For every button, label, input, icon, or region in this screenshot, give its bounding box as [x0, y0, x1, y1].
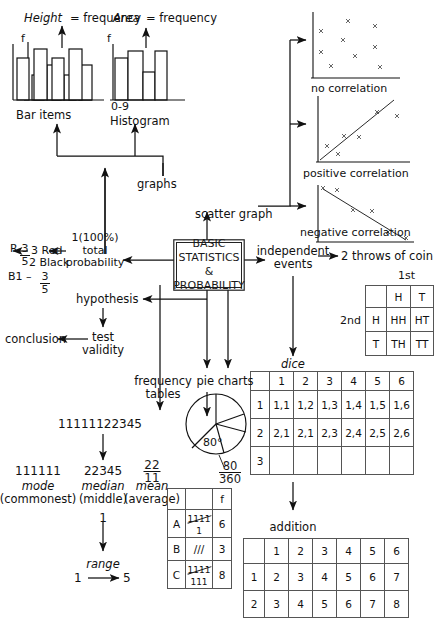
black-prob-denominator: 5 [40, 284, 50, 296]
pie-charts-label: pie charts [196, 375, 253, 388]
tally-remainder: 1 [196, 526, 202, 536]
scatter-caption-positive-correlation: positive correlation [303, 168, 409, 181]
addition-cell: 2 [289, 539, 313, 564]
hist-caption-equals-frequency: = frequency [146, 12, 217, 25]
dice-cell [366, 447, 390, 475]
mode-value: 111111 [15, 465, 61, 478]
conclusion-label: conclusion [5, 333, 66, 346]
tally-marks-cell: 1111 1 [186, 510, 213, 538]
coin-second-label: 2nd [340, 315, 361, 328]
dice-cell: 4 [342, 372, 366, 391]
mean-numerator: 22 [144, 459, 161, 471]
dice-cell [318, 447, 342, 475]
range-label: range [86, 558, 119, 571]
frequency-tables-line1: frequency [134, 375, 192, 388]
coin-throws-text: 2 throws of [341, 249, 409, 263]
addition-cell: 3 [289, 564, 313, 591]
black-prob-numerator: 3 [40, 271, 50, 283]
coin-cell: TT [411, 332, 434, 356]
dice-cell: 2 [294, 372, 318, 391]
addition-cell: 8 [385, 591, 409, 618]
dice-cell: 2,5 [366, 419, 390, 447]
addition-cell: 5 [361, 539, 385, 564]
range-to-value: 5 [123, 572, 131, 585]
table-row: 1 2 3 4 5 6 [251, 372, 414, 391]
tally-frequency-table: f A 1111 1 6 B /// 3 C 1111 111 [167, 488, 232, 589]
bar-chart-title: Bar items [16, 109, 71, 122]
coin-cell: T [411, 286, 434, 308]
red-prob-numerator: 3 [20, 243, 30, 255]
coin-cell: T [366, 332, 387, 356]
addition-cell: 3 [265, 591, 289, 618]
addition-cell: 6 [385, 539, 409, 564]
addition-label: addition [270, 521, 317, 534]
coin-cell [366, 286, 387, 308]
bar-caption-height: Height [24, 12, 62, 25]
tally-header-cell [168, 489, 186, 510]
dice-cell: 1,2 [294, 391, 318, 419]
test-validity-line1: test [92, 331, 114, 344]
center-line-1: BASIC [173, 237, 245, 251]
table-row: 1 2 3 4 5 6 7 [244, 564, 409, 591]
tally-category-cell: C [168, 561, 186, 589]
tally-category-cell: B [168, 538, 186, 561]
dice-cell: 2,3 [318, 419, 342, 447]
tally-header-f: f [213, 489, 232, 510]
hist-axis-f-label: f [107, 33, 111, 46]
scatter-graph-label: scatter graph [195, 208, 273, 221]
tally-marks-cell: /// [186, 538, 213, 561]
tally-header-cell [186, 489, 213, 510]
addition-cell: 7 [385, 564, 409, 591]
red-probability-fraction: 3 5 [20, 243, 30, 268]
hist-range-label: 0-9 [111, 101, 129, 114]
table-row: 3 [251, 447, 414, 475]
dice-label: dice [281, 358, 305, 371]
table-row: T TH TT [366, 332, 434, 356]
dice-cell: 1 [270, 372, 294, 391]
addition-cell: 1 [265, 539, 289, 564]
mode-subtitle: (commonest) [0, 493, 76, 506]
dice-cell [342, 447, 366, 475]
dice-cell: 2,4 [342, 419, 366, 447]
tally-frequency-cell: 8 [213, 561, 232, 589]
center-topic-box[interactable]: BASIC STATISTICS & PROBABILITY [176, 242, 242, 288]
tally-remainder: 111 [190, 577, 207, 587]
addition-cell: 2 [265, 564, 289, 591]
dice-cell: 2,1 [294, 419, 318, 447]
addition-cell: 5 [313, 591, 337, 618]
data-string-value: 11111122345 [58, 418, 142, 431]
graphs-label: graphs [137, 178, 177, 191]
tally-strike-group: 1111 [188, 566, 211, 575]
dice-cell: 2,1 [270, 419, 294, 447]
dice-cell: 2 [251, 419, 270, 447]
hypothesis-label: hypothesis [76, 293, 138, 306]
red-probability-label: R [10, 243, 18, 256]
addition-cell: 4 [289, 591, 313, 618]
balls-black-count: 2 Black [29, 257, 69, 270]
pie-angle-label: 80° [203, 437, 223, 450]
addition-cell: 3 [313, 539, 337, 564]
dice-cell: 5 [366, 372, 390, 391]
addition-cell: 6 [361, 564, 385, 591]
addition-cell: 2 [244, 591, 265, 618]
addition-cell [244, 539, 265, 564]
mean-result: 1 [99, 512, 107, 525]
independent-events-line1: independent [257, 245, 330, 258]
table-row: 1 2 3 4 5 6 [244, 539, 409, 564]
coin-first-label: 1st [398, 270, 415, 283]
dice-cell [390, 447, 414, 475]
black-probability-fraction: 3 5 [40, 271, 50, 296]
total-probability-line1: 1(100%) [71, 232, 118, 245]
dice-cell: 3 [318, 372, 342, 391]
dice-cell: 1,6 [390, 391, 414, 419]
coin-cell: H [387, 286, 411, 308]
median-name: median [81, 480, 124, 493]
table-row: B /// 3 [168, 538, 232, 561]
addition-cell: 5 [337, 564, 361, 591]
tally-strike-group: 1111 [188, 515, 211, 524]
addition-cell: 4 [313, 564, 337, 591]
center-line-2: STATISTICS & [173, 251, 245, 279]
addition-cell: 4 [337, 539, 361, 564]
range-from-value: 1 [74, 572, 82, 585]
